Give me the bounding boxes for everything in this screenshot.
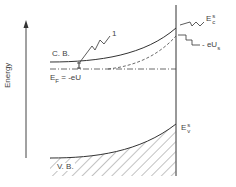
ec-sub: c bbox=[212, 19, 215, 25]
ev-sub: v bbox=[187, 128, 190, 134]
energy-axis bbox=[24, 20, 29, 158]
ec-main: E bbox=[206, 14, 211, 23]
label-ev-surface: Esv bbox=[181, 122, 190, 134]
eus-main: - eU bbox=[202, 40, 217, 49]
band-diagram-canvas bbox=[0, 0, 236, 187]
fermi-sub: F bbox=[55, 78, 59, 84]
fermi-eq: = -eU bbox=[59, 73, 81, 82]
pointer-eus bbox=[178, 35, 200, 45]
ev-main: E bbox=[181, 123, 186, 132]
label-valence-band: V. B. bbox=[56, 163, 75, 171]
label-eus: - eUs bbox=[202, 41, 220, 49]
label-marker-1: 1 bbox=[112, 30, 116, 38]
label-ec-surface: Esc bbox=[206, 13, 215, 25]
gap-marker bbox=[77, 62, 81, 69]
pointer-ec bbox=[180, 22, 204, 26]
axis-label-energy: Energy bbox=[3, 63, 12, 88]
axis-arrow-icon bbox=[24, 20, 29, 28]
label-conduction-band: C. B. bbox=[52, 50, 70, 58]
potential-dashed-curve bbox=[108, 36, 176, 69]
label-fermi-level: EF = -eU bbox=[50, 74, 81, 82]
eus-sub: s bbox=[217, 45, 220, 51]
